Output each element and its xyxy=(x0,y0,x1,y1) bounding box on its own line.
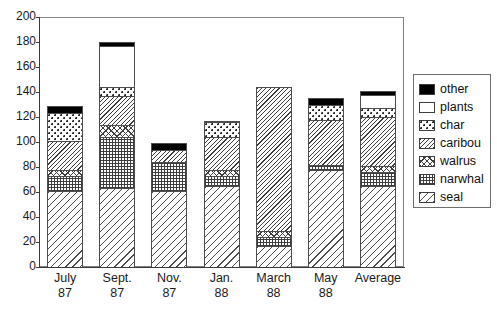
legend-label: char xyxy=(440,119,464,131)
bar-segment-char[interactable] xyxy=(205,122,239,137)
bar-slot xyxy=(360,17,396,267)
bar-segment-char[interactable] xyxy=(361,108,395,117)
bar-slot xyxy=(99,17,135,267)
y-axis-tick-label: 60 xyxy=(4,186,36,196)
legend-label: walrus xyxy=(440,155,476,167)
x-axis-label-line2: 87 xyxy=(143,286,195,301)
bar-segment-seal[interactable] xyxy=(48,191,82,267)
bar-segment-narwhal[interactable] xyxy=(309,165,343,170)
legend-swatch-narwhal xyxy=(419,174,435,185)
legend-item-seal[interactable]: seal xyxy=(419,188,490,206)
bar-segment-plants[interactable] xyxy=(361,95,395,109)
x-axis-line xyxy=(39,267,405,268)
bar-segment-caribou[interactable] xyxy=(361,117,395,166)
x-axis-label: Average xyxy=(352,271,404,286)
bar-segment-seal[interactable] xyxy=(361,186,395,267)
bar-segment-other[interactable] xyxy=(48,106,82,114)
legend-swatch-other xyxy=(419,84,435,95)
chart-container: 020406080100120140160180200 July87Sept.8… xyxy=(0,0,497,311)
bar-segment-other[interactable] xyxy=(361,91,395,95)
bar-segment-caribou[interactable] xyxy=(152,150,186,163)
stacked-bar[interactable] xyxy=(256,87,292,267)
bar-segment-seal[interactable] xyxy=(152,191,186,267)
x-axis-label-line1: Nov. xyxy=(157,271,182,285)
bar-slot xyxy=(308,17,344,267)
y-axis-tick-mark xyxy=(36,92,40,93)
y-axis-tick-mark xyxy=(36,217,40,218)
bar-segment-walrus[interactable] xyxy=(48,170,82,176)
bar-segment-other[interactable] xyxy=(309,98,343,104)
bar-segment-other[interactable] xyxy=(152,143,186,149)
stacked-bar[interactable] xyxy=(204,121,240,267)
bar-segment-seal[interactable] xyxy=(100,188,134,267)
bar-segment-walrus[interactable] xyxy=(361,166,395,172)
legend-item-char[interactable]: char xyxy=(419,116,490,134)
bar-segment-other[interactable] xyxy=(100,42,134,46)
y-axis-tick-mark xyxy=(36,167,40,168)
legend-item-caribou[interactable]: caribou xyxy=(419,134,490,152)
bar-segment-seal[interactable] xyxy=(257,246,291,267)
stacked-bar[interactable] xyxy=(99,42,135,267)
bars-group xyxy=(39,17,404,267)
x-axis-label: July87 xyxy=(39,271,91,301)
bar-segment-narwhal[interactable] xyxy=(152,162,186,191)
bar-slot xyxy=(151,17,187,267)
legend-item-other[interactable]: other xyxy=(419,80,490,98)
y-axis-tick-mark xyxy=(36,267,40,268)
legend-swatch-walrus xyxy=(419,156,435,167)
y-axis-tick-label: 140 xyxy=(4,86,36,96)
y-axis-tick-mark xyxy=(36,42,40,43)
y-axis-tick-mark xyxy=(36,117,40,118)
legend-label: seal xyxy=(440,191,463,203)
bar-segment-caribou[interactable] xyxy=(309,120,343,165)
x-axis-labels: July87Sept.87Nov.87Jan.88March88May88Ave… xyxy=(39,271,404,311)
legend-item-walrus[interactable]: walrus xyxy=(419,152,490,170)
stacked-bar[interactable] xyxy=(360,91,396,267)
bar-segment-seal[interactable] xyxy=(205,186,239,267)
bar-segment-seal[interactable] xyxy=(309,170,343,268)
bar-segment-char[interactable] xyxy=(100,87,134,96)
y-axis-tick-label: 120 xyxy=(4,111,36,121)
stacked-bar[interactable] xyxy=(47,106,83,267)
bar-segment-narwhal[interactable] xyxy=(48,176,82,191)
legend-swatch-char xyxy=(419,120,435,131)
bar-segment-caribou[interactable] xyxy=(48,141,82,170)
legend-item-narwhal[interactable]: narwhal xyxy=(419,170,490,188)
legend-item-plants[interactable]: plants xyxy=(419,98,490,116)
x-axis-label-line1: May xyxy=(314,271,338,285)
bar-segment-narwhal[interactable] xyxy=(205,176,239,186)
x-axis-label-line1: March xyxy=(256,271,291,285)
y-axis-tick-mark xyxy=(36,142,40,143)
x-axis-label: Nov.87 xyxy=(143,271,195,301)
stacked-bar[interactable] xyxy=(151,143,187,267)
bar-segment-other[interactable] xyxy=(205,121,239,122)
bar-segment-walrus[interactable] xyxy=(257,231,291,237)
legend-swatch-caribou xyxy=(419,138,435,149)
x-axis-label-line2: 88 xyxy=(300,286,352,301)
bar-segment-char[interactable] xyxy=(48,113,82,141)
y-axis-tick-label: 180 xyxy=(4,36,36,46)
x-axis-label-line2: 88 xyxy=(248,286,300,301)
bar-segment-narwhal[interactable] xyxy=(361,172,395,186)
y-axis-tick-label: 0 xyxy=(4,261,36,271)
stacked-bar[interactable] xyxy=(308,98,344,267)
y-axis-tick-mark xyxy=(36,242,40,243)
bar-segment-caribou[interactable] xyxy=(257,87,291,231)
bar-segment-char[interactable] xyxy=(309,105,343,120)
bar-segment-caribou[interactable] xyxy=(205,137,239,170)
bar-segment-walrus[interactable] xyxy=(205,170,239,176)
legend-label: narwhal xyxy=(440,173,484,185)
bar-segment-plants[interactable] xyxy=(100,46,134,87)
bar-segment-narwhal[interactable] xyxy=(257,237,291,246)
x-axis-label: Jan.88 xyxy=(195,271,247,301)
bar-segment-walrus[interactable] xyxy=(100,125,134,138)
legend-label: plants xyxy=(440,101,473,113)
y-axis-tick-mark xyxy=(36,192,40,193)
bar-segment-caribou[interactable] xyxy=(100,96,134,125)
bar-slot xyxy=(204,17,240,267)
legend-label: other xyxy=(440,83,469,95)
x-axis-label-line1: July xyxy=(54,271,76,285)
bar-segment-narwhal[interactable] xyxy=(100,137,134,188)
y-axis-tick-label: 80 xyxy=(4,161,36,171)
y-axis-tick-label: 200 xyxy=(4,11,36,21)
